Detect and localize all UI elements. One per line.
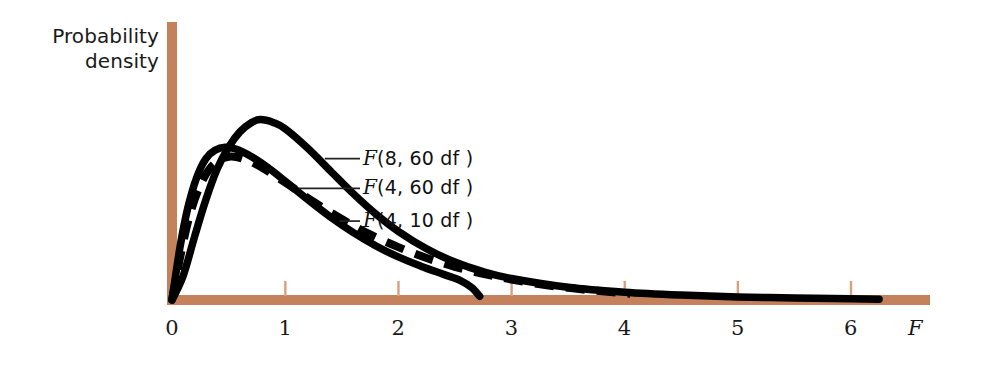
x-tick-label: 1 — [270, 316, 300, 340]
x-tick-label: 2 — [383, 316, 413, 340]
x-tick-mark — [850, 281, 852, 296]
curves-group — [172, 120, 879, 300]
x-tick-mark — [284, 281, 286, 296]
x-tick-mark — [397, 281, 399, 296]
x-tick-label: 5 — [723, 316, 753, 340]
x-tick-label: 6 — [836, 316, 866, 340]
curve-label-symbol: F — [363, 146, 377, 170]
curve-label-f4-60: F(4, 60 df ) — [363, 175, 473, 199]
x-tick-label: 0 — [157, 316, 187, 340]
curve-label-f4-10: F(4, 10 df ) — [363, 208, 473, 232]
curve-label-params: (4, 60 df ) — [377, 176, 473, 198]
curve-label-symbol: F — [363, 208, 377, 232]
plot-area — [0, 0, 981, 365]
curve-label-f8-60: F(8, 60 df ) — [363, 146, 473, 170]
curve-label-params: (4, 10 df ) — [377, 209, 473, 231]
x-axis-title: F — [908, 316, 923, 340]
f-distribution-figure: Probability density 0123456 F(8, 60 df )… — [0, 0, 981, 365]
curve-label-params: (8, 60 df ) — [377, 147, 473, 169]
x-tick-label: 4 — [610, 316, 640, 340]
axis-group — [167, 22, 930, 305]
curve-f-8-60-df- — [172, 120, 879, 300]
curve-label-symbol: F — [363, 175, 377, 199]
x-tick-label: 3 — [496, 316, 526, 340]
